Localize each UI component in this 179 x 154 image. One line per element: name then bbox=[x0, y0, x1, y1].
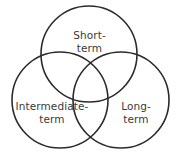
label-long-term-line1: Long- bbox=[102, 100, 170, 113]
label-long-term: Long- term bbox=[102, 100, 170, 125]
label-intermediate-term: Intermediate- term bbox=[0, 100, 104, 125]
label-short-term-line1: Short- bbox=[0, 29, 179, 42]
circle-short-term bbox=[41, 6, 137, 102]
venn-diagram: Short- term Intermediate- term Long- ter… bbox=[0, 0, 179, 154]
label-long-term-line2: term bbox=[102, 113, 170, 126]
label-intermediate-term-line1: Intermediate- bbox=[0, 100, 104, 113]
label-intermediate-term-line2: term bbox=[0, 113, 104, 126]
venn-circles-group bbox=[0, 0, 179, 154]
label-short-term: Short- term bbox=[0, 29, 179, 54]
label-short-term-line2: term bbox=[0, 42, 179, 55]
